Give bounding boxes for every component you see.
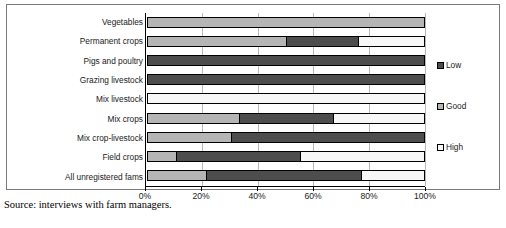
legend-swatch-icon [437,62,444,69]
bar-row [147,132,425,143]
bar-segment-good [148,37,286,46]
bar-segment-low [148,75,424,84]
source-caption: Source: interviews with farm managers. [4,199,172,210]
chart-legend: LowGoodHigh [437,60,503,152]
bar-row [147,170,425,181]
category-label: Mix crop-livestock [17,133,143,144]
chart-frame: VegetablesPermanent cropsPigs and poultr… [6,4,500,190]
plot-wrapper [145,13,425,193]
bar-segment-low [239,114,333,123]
bar-segment-high [333,114,424,123]
category-axis-labels: VegetablesPermanent cropsPigs and poultr… [17,13,143,187]
bar-row [147,113,425,124]
plot-area [145,13,425,187]
x-axis-tick-label: 40% [248,191,265,201]
bar-segment-low [176,152,300,161]
bar-segment-good [148,133,231,142]
bar-segment-high [358,37,424,46]
category-label: Field crops [17,152,143,163]
figure-container: VegetablesPermanent cropsPigs and poultr… [0,0,506,228]
legend-item-high[interactable]: High [437,142,503,152]
category-label: Mix livestock [17,94,143,105]
legend-item-good[interactable]: Good [437,101,503,111]
legend-swatch-icon [437,103,444,110]
bar-segment-good [148,18,424,27]
bar-segment-low [206,171,361,180]
bar-segment-good [148,152,176,161]
bar-row [147,93,425,104]
bar-segment-high [148,94,424,103]
legend-swatch-icon [437,144,444,151]
x-axis-tick-label: 80% [360,191,377,201]
legend-label: Good [446,101,466,111]
bar-segment-good [148,114,239,123]
bar-row [147,74,425,85]
category-label: Permanent crops [17,36,143,47]
bar-segment-high [361,171,424,180]
bar-rows [147,13,425,185]
category-label: All unregistered fams [17,172,143,183]
x-axis-tick-label: 100% [414,191,436,201]
bar-segment-low [148,56,424,65]
x-axis-tick-label: 20% [192,191,209,201]
bar-segment-high [300,152,424,161]
category-label: Mix crops [17,114,143,125]
category-label: Pigs and poultry [17,56,143,67]
bar-row [147,36,425,47]
bar-segment-low [231,133,424,142]
legend-item-low[interactable]: Low [437,60,503,70]
bar-segment-good [148,171,206,180]
bar-row [147,17,425,28]
legend-label: High [446,142,463,152]
legend-label: Low [446,60,461,70]
category-label: Grazing livestock [17,75,143,86]
bar-row [147,55,425,66]
gridline [425,13,426,186]
category-label: Vegetables [17,17,143,28]
bar-row [147,151,425,162]
bar-segment-low [286,37,358,46]
x-axis-tick-label: 60% [304,191,321,201]
